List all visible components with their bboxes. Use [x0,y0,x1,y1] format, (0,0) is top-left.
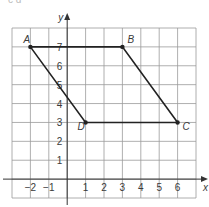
point-label-c: C [183,121,191,132]
y-tick-label: 4 [57,99,63,110]
tick-labels: −2−11234561234567 [25,42,181,193]
x-axis-label: x [202,182,209,193]
coordinate-grid-diagram: xy −2−11234561234567 ABCD [0,0,209,207]
y-axis-arrow-icon [64,13,70,20]
point-label-a: A [22,34,30,45]
x-tick-label: 3 [120,182,126,193]
y-tick-label: 2 [57,136,63,147]
y-tick-label: 3 [57,117,63,128]
x-tick-label: 2 [101,182,107,193]
vertex-points: ABCD [22,34,190,133]
x-tick-label: 6 [175,182,181,193]
x-tick-label: 4 [138,182,144,193]
y-axis-label: y [57,12,64,23]
x-tick-label: 1 [83,182,89,193]
point-c-dot-icon [175,120,179,124]
grid-lines [12,28,196,198]
point-label-b: B [127,34,134,45]
x-tick-label: −1 [43,182,55,193]
axes: xy [3,12,209,205]
x-tick-label: −2 [25,182,37,193]
y-tick-label: 1 [57,155,63,166]
point-label-d: D [78,121,85,132]
point-b-dot-icon [120,45,124,49]
y-tick-label: 6 [57,61,63,72]
point-a-dot-icon [28,45,32,49]
x-tick-label: 5 [156,182,162,193]
